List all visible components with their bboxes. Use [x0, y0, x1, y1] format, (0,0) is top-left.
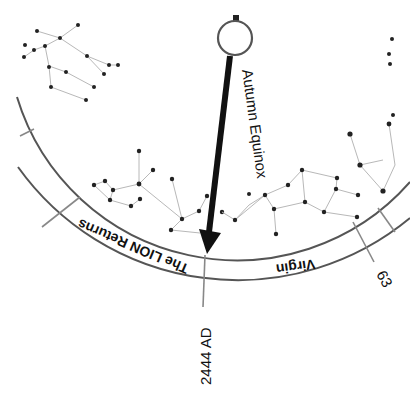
- constellation-upper-left: [22, 23, 120, 102]
- arrow-down-icon: [199, 229, 221, 254]
- divider-right-63: [353, 222, 374, 262]
- ring-dividers: [20, 129, 395, 307]
- autumn-equinox-marker: [199, 15, 252, 254]
- constellation-virgo: [222, 37, 395, 236]
- marker-pointer-shaft: [209, 56, 230, 232]
- date-label-2444: 2444 AD: [197, 327, 214, 385]
- segment-label-lion-returns: The LION Returns: [75, 216, 191, 277]
- zodiac-precession-diagram: Autumn Equinox The LION Returns Virgin 2…: [0, 0, 410, 398]
- divider-right-edge: [378, 208, 395, 232]
- date-label-63: 63: [373, 267, 396, 290]
- segment-label-virgin: Virgin: [275, 256, 316, 277]
- divider-2444: [203, 255, 205, 307]
- marker-circle-icon: [218, 21, 252, 55]
- constellation-leo: [92, 149, 224, 233]
- autumn-equinox-label: Autumn Equinox: [239, 68, 271, 180]
